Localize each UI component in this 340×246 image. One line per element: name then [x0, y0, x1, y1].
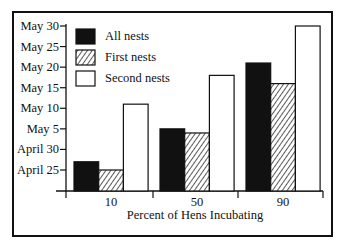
bar-all-nests-90: [246, 63, 271, 191]
y-tick-label: April 25: [17, 163, 59, 177]
y-tick-label: May 15: [20, 81, 59, 95]
bar-first-nests-10: [99, 170, 124, 191]
legend-label: First nests: [105, 50, 156, 64]
legend-label: All nests: [105, 29, 149, 43]
y-axis: April 25April 30May 5May 10May 15May 20M…: [17, 19, 66, 191]
x-axis-title: Percent of Hens Incubating: [127, 208, 264, 222]
bar-all-nests-10: [74, 162, 99, 191]
x-axis: 105090: [56, 191, 323, 209]
y-tick-label: May 30: [20, 19, 59, 33]
y-tick-label: May 25: [20, 40, 59, 54]
bar-second-nests-50: [209, 75, 234, 191]
y-tick-label: May 20: [20, 60, 59, 74]
y-tick-label: May 10: [20, 101, 59, 115]
bar-first-nests-90: [271, 84, 296, 191]
bar-all-nests-50: [160, 129, 185, 191]
legend-swatch-second-nests: [76, 71, 95, 86]
legend-swatch-all-nests: [76, 29, 95, 44]
bar-chart: April 25April 30May 5May 10May 15May 20M…: [0, 0, 340, 246]
legend: All nestsFirst nestsSecond nests: [76, 29, 170, 86]
legend-swatch-first-nests: [76, 50, 95, 65]
x-tick-label: 90: [277, 195, 290, 209]
y-tick-label: April 30: [17, 142, 59, 156]
x-tick-label: 10: [105, 195, 118, 209]
legend-label: Second nests: [105, 71, 170, 85]
bar-second-nests-90: [295, 26, 320, 191]
bar-first-nests-50: [185, 133, 210, 191]
y-tick-label: May 5: [27, 122, 59, 136]
bar-second-nests-10: [123, 104, 148, 191]
x-tick-label: 50: [191, 195, 204, 209]
